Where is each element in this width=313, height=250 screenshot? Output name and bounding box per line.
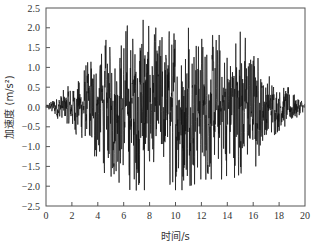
y-tick-label: 0.0: [28, 102, 41, 113]
y-tick-label: 0.5: [28, 82, 41, 93]
acceleration-line: [46, 20, 305, 191]
y-tick-label: 2.5: [28, 3, 41, 14]
y-tick-label: −2.5: [22, 201, 40, 212]
x-tick-label: 8: [147, 210, 152, 221]
x-tick-label: 20: [300, 210, 310, 221]
y-tick-label: 1.5: [28, 42, 41, 53]
x-tick-label: 10: [171, 210, 181, 221]
y-axis-title: 加速度 (m/s²): [3, 75, 15, 138]
y-tick-label: −1.0: [22, 141, 40, 152]
acceleration-time-chart: 02468101214161820 2.52.01.51.00.50.0−0.5…: [0, 0, 313, 250]
x-tick-label: 2: [69, 210, 74, 221]
y-tick-label: −0.5: [22, 121, 40, 132]
x-tick-label: 12: [196, 210, 206, 221]
y-tick-label: −2.0: [22, 181, 40, 192]
x-tick-label: 0: [44, 210, 49, 221]
y-tick-label: 1.0: [28, 62, 41, 73]
x-tick-label: 18: [274, 210, 284, 221]
x-axis-title: 时间/s: [161, 230, 190, 242]
x-tick-label: 6: [121, 210, 126, 221]
y-tick-label: 2.0: [28, 22, 41, 33]
x-axis: 02468101214161820: [44, 202, 311, 221]
waveform-series: [46, 20, 305, 191]
x-tick-label: 14: [222, 210, 232, 221]
y-tick-label: −1.5: [22, 161, 40, 172]
x-tick-label: 16: [248, 210, 258, 221]
x-tick-label: 4: [95, 210, 100, 221]
